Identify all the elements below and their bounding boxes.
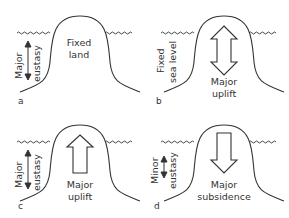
side-label-line2: eustasy (167, 152, 178, 189)
center-label-line2: land (69, 49, 90, 60)
sea-surface-right (249, 32, 276, 34)
panel-letter: c (18, 201, 23, 211)
up-hollow-arrow-icon (67, 135, 93, 173)
panel-letter: d (154, 201, 160, 211)
side-label-line1: Major (13, 53, 24, 79)
panel-a: Major eustasy Fixed land a (13, 16, 140, 106)
double-hollow-arrow-icon (211, 26, 237, 75)
sea-surface-right (249, 141, 276, 143)
side-label-line1: Minor (149, 157, 160, 184)
side-label-line2: eustasy (31, 154, 42, 191)
sea-surface-left (161, 141, 194, 143)
side-label-line2: sea level (167, 41, 178, 83)
center-label-line1: Major (211, 76, 237, 87)
diagram-figure: Major eustasy Fixed land a Fixed sea lev… (0, 0, 289, 218)
center-label-line1: Major (67, 179, 93, 190)
side-label-line1: Fixed (155, 48, 166, 73)
sea-surface-left (17, 32, 50, 34)
center-label-line2: uplift (212, 88, 237, 99)
sea-surface-right (105, 141, 132, 143)
sea-surface-left (161, 32, 194, 34)
sea-surface-left (17, 141, 50, 143)
panel-b: Fixed sea level Major uplift b (155, 16, 284, 106)
center-label-line1: Fixed (67, 37, 92, 48)
panel-letter: a (18, 96, 24, 106)
center-label-line1: Major (211, 179, 237, 190)
down-hollow-arrow-icon (211, 133, 237, 173)
panel-d: Minor eustasy Major subsidence d (149, 125, 284, 211)
sea-surface-right (105, 32, 132, 34)
center-label-line2: uplift (68, 191, 93, 202)
side-label-line2: eustasy (31, 45, 42, 82)
panel-letter: b (156, 96, 162, 106)
center-label-line2: subsidence (197, 191, 251, 202)
side-label-line1: Major (13, 162, 24, 188)
panel-c: Major eustasy Major uplift c (13, 125, 140, 211)
